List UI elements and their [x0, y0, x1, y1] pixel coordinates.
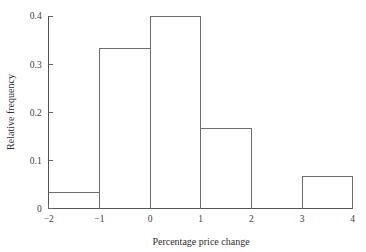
- histogram-figure: −2−10123400.10.20.30.4 Percentage price …: [0, 0, 366, 252]
- histogram-bar: [302, 176, 353, 208]
- y-axis-title: Relative frequency: [5, 74, 16, 150]
- x-tick-label: −2: [44, 214, 54, 224]
- y-tick-label: 0: [37, 204, 42, 214]
- histogram-bar: [49, 193, 100, 209]
- y-tick-label: 0.3: [30, 60, 42, 70]
- y-tick-label: 0.1: [30, 156, 42, 166]
- tick-labels-group: −2−10123400.10.20.30.4: [30, 11, 356, 223]
- y-tick-label: 0.2: [30, 108, 42, 118]
- x-tick-label: −1: [94, 214, 104, 224]
- x-tick-label: 4: [350, 214, 355, 224]
- x-tick-label: 2: [249, 214, 254, 224]
- bars-group: [49, 16, 353, 209]
- x-tick-label: 3: [300, 214, 305, 224]
- histogram-bar: [99, 48, 150, 208]
- histogram-bar: [150, 16, 201, 209]
- x-tick-label: 0: [148, 214, 153, 224]
- histogram-bar: [201, 128, 252, 208]
- y-tick-label: 0.4: [30, 11, 42, 21]
- histogram-plot: −2−10123400.10.20.30.4 Percentage price …: [0, 0, 366, 252]
- x-axis-title: Percentage price change: [152, 236, 250, 247]
- x-tick-label: 1: [198, 214, 203, 224]
